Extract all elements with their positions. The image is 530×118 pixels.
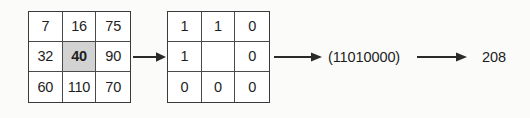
- grid-cell: 7: [29, 12, 63, 42]
- grid-cell: 16: [63, 12, 97, 42]
- grid-cell: 1: [168, 12, 202, 42]
- grid-cell: 0: [235, 12, 269, 42]
- lbp-diagram: 7 16 75 32 40 90 60 110 70 1 1 0 1 0 0 0…: [0, 0, 530, 118]
- arrow-right-icon: [417, 50, 467, 64]
- grid-cell: 0: [235, 72, 269, 102]
- grid-cell: 0: [168, 72, 202, 102]
- grid-cell: 90: [96, 42, 130, 72]
- grid-cell: 75: [96, 12, 130, 42]
- grid-cell-center-highlighted: 40: [63, 42, 97, 72]
- grid-cell: 1: [202, 12, 236, 42]
- binary-string-label: (11010000): [328, 50, 400, 65]
- grid-cell: 32: [29, 42, 63, 72]
- thresholded-binary-grid: 1 1 0 1 0 0 0 0: [167, 11, 270, 103]
- grid-cell: 1: [168, 42, 202, 72]
- decimal-value-label: 208: [482, 50, 506, 65]
- grid-cell: 70: [96, 72, 130, 102]
- arrow-right-icon: [133, 50, 166, 64]
- original-intensity-grid: 7 16 75 32 40 90 60 110 70: [28, 11, 131, 103]
- grid-cell: 0: [235, 42, 269, 72]
- grid-cell: 0: [202, 72, 236, 102]
- grid-cell: 60: [29, 72, 63, 102]
- grid-cell-center-empty: [202, 42, 236, 72]
- grid-cell: 110: [63, 72, 97, 102]
- arrow-right-icon: [274, 50, 322, 64]
